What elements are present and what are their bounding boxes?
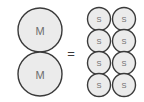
left-group-m-circles: M M	[18, 8, 62, 96]
s-circle-4: S	[113, 30, 136, 53]
s-circle-3: S	[88, 30, 111, 53]
diagram-canvas: M M = S S S S	[0, 0, 144, 102]
m-circle-1: M	[18, 8, 62, 52]
s-circle-label: S	[121, 15, 126, 24]
s-circle-6: S	[113, 52, 136, 75]
equals-symbol-group: =	[67, 46, 75, 61]
equivalence-diagram: M M = S S S S	[0, 0, 144, 102]
right-group-s-circles: S S S S S S S	[88, 8, 136, 97]
m-circle-label: M	[35, 69, 44, 81]
s-circle-label: S	[121, 37, 126, 46]
m-circle-2: M	[18, 52, 62, 96]
s-circle-label: S	[96, 81, 101, 90]
s-circle-label: S	[121, 81, 126, 90]
m-circle-label: M	[35, 25, 44, 37]
s-circle-1: S	[88, 8, 111, 31]
s-circle-label: S	[96, 59, 101, 68]
s-circle-7: S	[88, 74, 111, 97]
equals-sign: =	[67, 46, 75, 61]
s-circle-2: S	[113, 8, 136, 31]
s-circle-8: S	[113, 74, 136, 97]
s-circle-5: S	[88, 52, 111, 75]
s-circle-label: S	[96, 15, 101, 24]
s-circle-label: S	[121, 59, 126, 68]
s-circle-label: S	[96, 37, 101, 46]
